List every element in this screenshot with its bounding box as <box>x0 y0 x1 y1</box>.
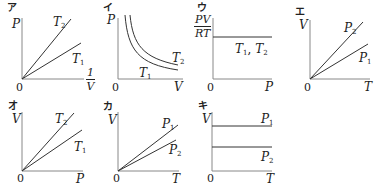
graph-tag: イ <box>103 3 113 13</box>
graph-tag: カ <box>103 102 113 112</box>
line-t1 <box>22 130 82 171</box>
y-axis-label: V <box>108 114 117 126</box>
graph-tag: オ <box>8 101 18 111</box>
curve-label-p2: P2 <box>344 22 357 36</box>
curve-label-p1: P1 <box>359 52 372 66</box>
curve-label-t1: T1 <box>139 67 151 81</box>
graph-a-plot <box>0 0 95 95</box>
graph-u-pv-over-rt-vs-p: ウ PV RT 0 P T1, T2 <box>190 0 285 95</box>
graph-a-p-vs-inverse-v: ア P 0 1 V T2 T1 <box>0 0 95 95</box>
curve-label-t1: T1 <box>72 53 84 67</box>
origin-label: 0 <box>113 173 120 184</box>
y-axis-label: V <box>202 113 211 125</box>
graph-tag: ウ <box>197 3 207 13</box>
graph-tag: エ <box>295 7 305 17</box>
curve-label-t2: T2 <box>172 52 184 66</box>
curve-label-t1-t2: T1, T2 <box>235 43 268 57</box>
curve-label-p2: P2 <box>261 151 274 165</box>
x-axis-label: 1 V <box>86 67 95 92</box>
x-axis-label: V <box>174 81 183 93</box>
graph-i-p-vs-v: イ P 0 V T2 T1 <box>95 0 190 95</box>
y-axis-label: P <box>12 18 20 30</box>
origin-label: 0 <box>304 82 311 93</box>
x-axis-label: P <box>265 81 273 93</box>
y-axis-label: PV RT <box>194 14 211 39</box>
graph-ka-v-vs-t: カ V 0 T P1 P2 <box>95 95 190 190</box>
x-axis-label: T <box>364 81 372 93</box>
curve-label-p1: P1 <box>162 118 175 132</box>
graph-tag: ア <box>7 3 17 13</box>
line-p2 <box>118 140 176 171</box>
curve-label-t1: T1 <box>74 141 86 155</box>
origin-label: 0 <box>112 82 119 93</box>
origin-label: 0 <box>207 173 214 184</box>
graph-ki-v-vs-t-constant: キ V 0 T P1 P2 <box>190 95 285 190</box>
y-axis-label: V <box>12 113 21 125</box>
graph-o-v-vs-p: オ V 0 P T2 T1 <box>0 95 95 190</box>
x-axis-label: T <box>172 173 180 185</box>
curve-t2 <box>130 15 178 65</box>
graph-tag: キ <box>198 101 208 111</box>
y-axis-label: P <box>107 14 115 26</box>
graph-e-v-vs-t: エ V 0 T P2 P1 <box>280 0 375 95</box>
curve-label-t2: T2 <box>55 113 67 127</box>
y-axis-label: V <box>299 19 308 31</box>
curve-t1 <box>125 15 178 70</box>
x-axis-label: T <box>266 173 274 185</box>
curve-label-p1: P1 <box>261 113 274 127</box>
curve-label-p2: P2 <box>169 144 182 158</box>
origin-label: 0 <box>17 173 24 184</box>
origin-label: 0 <box>16 82 23 93</box>
x-axis-label: P <box>76 173 84 185</box>
curve-label-t2: T2 <box>53 16 65 30</box>
origin-label: 0 <box>207 82 214 93</box>
